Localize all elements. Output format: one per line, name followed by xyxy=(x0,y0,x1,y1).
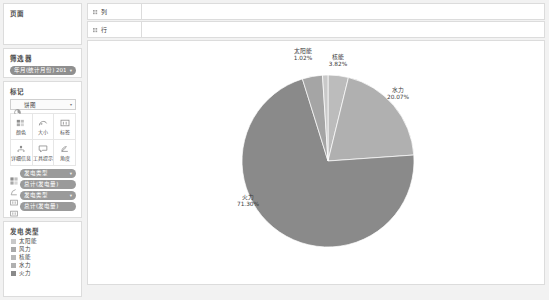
left-rail: 页面 筛选器 年月(统计月份) 2017.. ▾ 标记 饼图 ▾ xyxy=(0,0,85,300)
marks-pill-label-field-2[interactable]: 总计(发电量) xyxy=(20,202,76,211)
marks-pill-color-field[interactable]: 发电类型 ▾ xyxy=(20,169,76,178)
color-encoding-icon xyxy=(10,170,18,178)
marks-card: 标记 饼图 ▾ xyxy=(3,81,82,218)
pie-label-solar-value: 1.02% xyxy=(283,55,323,62)
pie-chart: 太阳能 1.02% 核能 3.82% 水力 20.07% 火力 71.30% xyxy=(88,41,544,284)
legend-item[interactable]: 太阳能 xyxy=(4,238,81,246)
angle-icon xyxy=(60,144,70,154)
pie-label-solar-name: 太阳能 xyxy=(294,48,312,54)
pages-card-title: 页面 xyxy=(4,4,81,20)
pie-label-thermal-value: 71.30% xyxy=(228,201,268,208)
label-icon xyxy=(60,118,70,128)
marks-button-detail-label: 详细信息 xyxy=(11,155,31,161)
pie-label-hydro: 水力 20.07% xyxy=(378,87,418,101)
pie-label-thermal-name: 火力 xyxy=(242,194,254,200)
legend-item-label: 水力 xyxy=(19,262,31,269)
legend-swatch xyxy=(11,255,16,260)
columns-shelf-dropzone[interactable] xyxy=(142,4,544,19)
marks-pill-label-field[interactable]: 发电类型 ▾ xyxy=(20,191,76,200)
legend-item-label: 风力 xyxy=(19,246,31,253)
filter-pill-label: 年月(统计月份) 2017.. xyxy=(14,66,66,75)
detail-icon xyxy=(16,144,26,154)
marks-pill-row[interactable]: 总计(发电量) xyxy=(10,202,76,211)
viz-canvas: 太阳能 1.02% 核能 3.82% 水力 20.07% 火力 71.30% xyxy=(87,40,545,285)
mark-type-select[interactable]: 饼图 ▾ xyxy=(10,99,76,110)
legend-item[interactable]: 火力 xyxy=(4,270,81,278)
mark-type-value: 饼图 xyxy=(24,101,70,109)
marks-pill-angle-field[interactable]: 总计(发电量) xyxy=(20,180,76,189)
pie-label-thermal: 火力 71.30% xyxy=(228,194,268,208)
marks-pill-row[interactable]: 发电类型 ▾ xyxy=(10,169,76,178)
label-encoding-icon xyxy=(10,203,18,211)
legend-swatch xyxy=(11,239,16,244)
pie-chart-svg[interactable] xyxy=(88,41,546,284)
tooltip-icon xyxy=(38,144,48,154)
label-encoding-icon xyxy=(10,192,18,200)
marks-button-grid: 颜色 大小 xyxy=(10,113,76,166)
marks-button-angle-label: 角度 xyxy=(60,155,70,161)
chevron-down-icon[interactable]: ▾ xyxy=(66,66,72,75)
marks-button-tooltip[interactable]: 工具提示 xyxy=(33,140,55,166)
marks-button-detail[interactable]: 详细信息 xyxy=(11,140,33,166)
legend-title: 发电类型 xyxy=(4,222,81,238)
marks-pill-label: 发电类型 xyxy=(24,191,66,200)
size-icon xyxy=(38,118,48,128)
pages-card: 页面 xyxy=(3,3,82,45)
filter-pill-year-month[interactable]: 年月(统计月份) 2017.. ▾ xyxy=(10,66,76,75)
legend-item[interactable]: 风力 xyxy=(4,246,81,254)
marks-button-size[interactable]: 大小 xyxy=(33,114,55,140)
pie-label-nuclear-name: 核能 xyxy=(332,54,344,60)
color-legend-card: 发电类型 太阳能 风力 核能 水力 火力 xyxy=(3,221,82,297)
color-palette-icon xyxy=(16,118,27,128)
marks-button-color-label: 颜色 xyxy=(16,129,26,135)
legend-item-label: 太阳能 xyxy=(19,238,37,245)
pie-label-nuclear-value: 3.82% xyxy=(318,61,358,68)
marks-button-angle[interactable]: 角度 xyxy=(54,140,76,166)
pie-label-hydro-name: 水力 xyxy=(392,87,404,93)
grip-icon xyxy=(93,9,98,14)
columns-shelf[interactable]: 列 xyxy=(87,3,545,20)
marks-pill-row[interactable]: 发电类型 ▾ xyxy=(10,191,76,200)
marks-button-label-label: 标签 xyxy=(60,129,70,135)
legend-item[interactable]: 核能 xyxy=(4,254,81,262)
tableau-worksheet: 页面 筛选器 年月(统计月份) 2017.. ▾ 标记 饼图 ▾ xyxy=(0,0,549,300)
columns-shelf-label: 列 xyxy=(88,4,142,19)
marks-shelf-pills: 发电类型 ▾ 总计(发电量) xyxy=(10,169,76,211)
legend-swatch xyxy=(11,247,16,252)
legend-item[interactable]: 水力 xyxy=(4,262,81,270)
columns-shelf-text: 列 xyxy=(101,7,107,16)
legend-item-label: 火力 xyxy=(19,270,31,277)
pie-label-hydro-value: 20.07% xyxy=(378,94,418,101)
rows-shelf-text: 行 xyxy=(101,25,107,34)
marks-button-color[interactable]: 颜色 xyxy=(11,114,33,140)
marks-button-tooltip-label: 工具提示 xyxy=(33,155,53,161)
chevron-down-icon[interactable]: ▾ xyxy=(66,191,72,200)
pie-label-solar: 太阳能 1.02% xyxy=(283,48,323,62)
chevron-down-icon[interactable]: ▾ xyxy=(66,169,72,178)
marks-card-title: 标记 xyxy=(4,82,81,98)
main-area: 列 行 太阳能 xyxy=(85,0,549,300)
rows-shelf[interactable]: 行 xyxy=(87,21,545,38)
pie-label-nuclear: 核能 3.82% xyxy=(318,54,358,68)
marks-pill-label: 总计(发电量) xyxy=(24,202,66,211)
marks-button-size-label: 大小 xyxy=(38,129,48,135)
legend-swatch xyxy=(11,271,16,276)
legend-swatch xyxy=(11,263,16,268)
marks-pill-label: 发电类型 xyxy=(24,169,66,178)
rows-shelf-dropzone[interactable] xyxy=(142,22,544,37)
angle-encoding-icon xyxy=(10,181,18,189)
marks-pill-label: 总计(发电量) xyxy=(24,180,66,189)
filters-card-title: 筛选器 xyxy=(4,49,81,65)
filters-card: 筛选器 年月(统计月份) 2017.. ▾ xyxy=(3,48,82,78)
rows-shelf-label: 行 xyxy=(88,22,142,37)
marks-button-label[interactable]: 标签 xyxy=(54,114,76,140)
pie-icon xyxy=(14,101,21,108)
chevron-down-icon[interactable]: ▾ xyxy=(70,102,72,107)
legend-item-label: 核能 xyxy=(19,254,31,261)
grip-icon xyxy=(93,27,98,32)
marks-pill-row[interactable]: 总计(发电量) xyxy=(10,180,76,189)
